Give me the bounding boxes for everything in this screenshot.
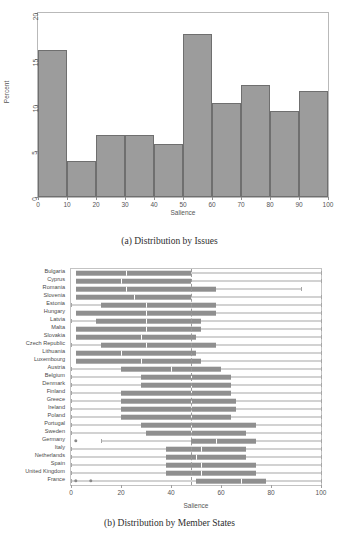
- histogram-bar: [154, 144, 183, 197]
- histogram-bar: [183, 34, 212, 197]
- whisker-cap: [301, 287, 302, 291]
- histogram-bars: [38, 13, 328, 197]
- member-state-label: Estonia: [0, 300, 65, 308]
- box-iqr: [191, 439, 256, 444]
- member-state-label: Belgium: [0, 372, 65, 380]
- x-tick-label: 90: [295, 201, 302, 208]
- box-iqr: [141, 383, 231, 388]
- boxplot-row: [71, 269, 321, 277]
- box-iqr: [101, 303, 216, 308]
- x-tick-mark: [241, 197, 242, 200]
- boxplot-plot-area: 020406080100: [70, 268, 322, 486]
- member-state-label: Sweden: [0, 428, 65, 436]
- boxplot-row: [71, 309, 321, 317]
- boxplot-row: [71, 293, 321, 301]
- panel-a-caption: (a) Distribution by Issues: [0, 236, 339, 246]
- x-tick-mark: [321, 485, 322, 488]
- y-tick-label: 5: [32, 151, 39, 155]
- whisker-cap: [71, 423, 72, 427]
- boxplot-row: [71, 381, 321, 389]
- x-tick-mark: [328, 197, 329, 200]
- box-iqr: [121, 399, 236, 404]
- whisker-cap: [321, 383, 322, 387]
- whisker-cap: [321, 399, 322, 403]
- x-tick-mark: [271, 485, 272, 488]
- median-line: [126, 287, 127, 292]
- whisker-cap: [71, 367, 72, 371]
- whisker-cap: [71, 383, 72, 387]
- whisker-cap: [321, 319, 322, 323]
- x-tick-label: 70: [237, 201, 244, 208]
- boxplot-row: [71, 461, 321, 469]
- member-state-label: Luxembourg: [0, 356, 65, 364]
- outlier-point: [74, 439, 77, 442]
- whisker-cap: [321, 391, 322, 395]
- whisker-cap: [321, 415, 322, 419]
- median-line: [201, 471, 202, 476]
- whisker-cap: [321, 375, 322, 379]
- member-state-label: United Kingdom: [0, 468, 65, 476]
- histogram-bar: [96, 135, 125, 197]
- member-state-labels: BulgariaCyprusRomaniaSloveniaEstoniaHung…: [0, 268, 68, 486]
- median-line: [201, 463, 202, 468]
- whisker-cap: [321, 343, 322, 347]
- x-tick-label: 60: [208, 201, 215, 208]
- whisker-cap: [321, 335, 322, 339]
- boxplot-row: [71, 349, 321, 357]
- member-state-label: Greece: [0, 396, 65, 404]
- whisker-cap: [321, 423, 322, 427]
- member-state-label: Finland: [0, 388, 65, 396]
- whisker-cap: [71, 375, 72, 379]
- median-line: [121, 351, 122, 356]
- whisker-cap: [71, 415, 72, 419]
- boxplot-row: [71, 365, 321, 373]
- x-tick-mark: [71, 485, 72, 488]
- x-tick-mark: [183, 197, 184, 200]
- y-axis-label-percent: Percent: [3, 81, 10, 103]
- member-state-label: Italy: [0, 444, 65, 452]
- whisker-cap: [321, 295, 322, 299]
- x-tick-label: 20: [117, 489, 124, 496]
- whisker-cap: [321, 407, 322, 411]
- boxplot-row: [71, 429, 321, 437]
- member-state-label: Lithuania: [0, 348, 65, 356]
- whisker-cap: [321, 351, 322, 355]
- boxplot-row: [71, 317, 321, 325]
- whisker-cap: [71, 479, 72, 483]
- member-state-label: Ireland: [0, 404, 65, 412]
- whisker-cap: [321, 447, 322, 451]
- y-tick-label: 10: [32, 105, 39, 112]
- member-state-label: Poland: [0, 412, 65, 420]
- whisker-cap: [321, 431, 322, 435]
- box-iqr: [76, 359, 201, 364]
- whisker-cap: [71, 343, 72, 347]
- whisker-cap: [321, 311, 322, 315]
- whisker-cap: [321, 303, 322, 307]
- x-axis-label-salience: Salience: [37, 209, 329, 216]
- box-iqr: [121, 415, 231, 420]
- median-line: [121, 279, 122, 284]
- whisker-cap: [71, 455, 72, 459]
- median-line: [241, 479, 242, 484]
- boxplot-row: [71, 445, 321, 453]
- median-line: [146, 343, 147, 348]
- whisker-cap: [321, 463, 322, 467]
- boxplot-row: [71, 325, 321, 333]
- y-tick-label: 15: [32, 59, 39, 66]
- histogram-bar: [270, 111, 299, 197]
- boxplot-row: [71, 333, 321, 341]
- histogram-bar: [125, 135, 154, 197]
- member-state-label: Hungary: [0, 308, 65, 316]
- median-line: [141, 359, 142, 364]
- median-line: [196, 455, 197, 460]
- boxplot-row: [71, 389, 321, 397]
- whisker-cap: [321, 327, 322, 331]
- histogram-bar: [212, 103, 241, 197]
- x-tick-label: 10: [63, 201, 70, 208]
- box-iqr: [76, 335, 196, 340]
- median-line: [146, 319, 147, 324]
- x-tick-label: 40: [167, 489, 174, 496]
- whisker-cap: [321, 455, 322, 459]
- x-tick-mark: [212, 197, 213, 200]
- box-iqr: [76, 271, 191, 276]
